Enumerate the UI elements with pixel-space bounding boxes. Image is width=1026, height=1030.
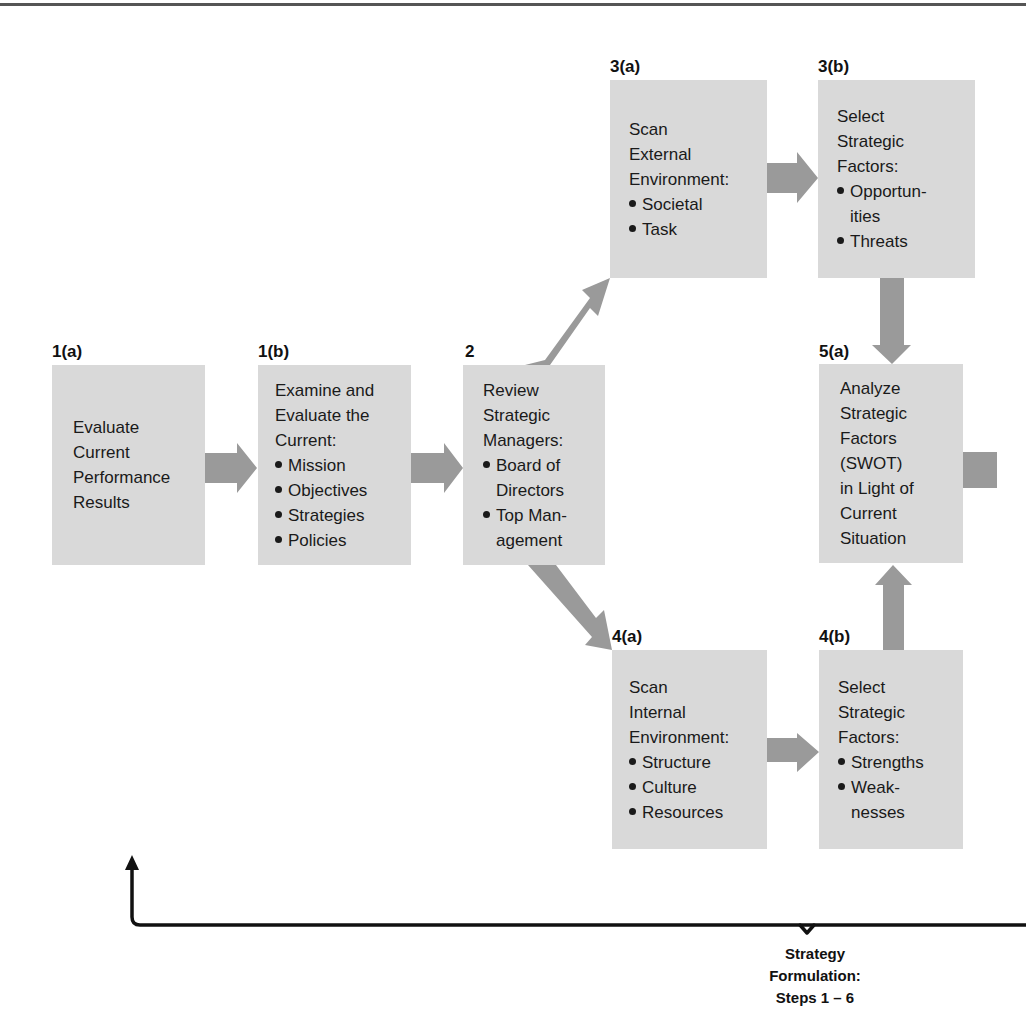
bullet-item: Resources (629, 800, 767, 825)
box-text: External (629, 142, 767, 167)
bullet-item: Threats (837, 229, 975, 254)
bullet-item: Societal (629, 192, 767, 217)
step-box-4b: Select Strategic Factors: Strengths Weak… (819, 650, 963, 849)
feedback-arrowhead-icon (125, 855, 139, 870)
footer-line: Strategy (745, 943, 885, 965)
bullet-icon (275, 486, 282, 493)
step-label-5a: 5(a) (819, 342, 849, 362)
bullet-icon (275, 461, 282, 468)
bullet-item: Opportun-ities (837, 179, 975, 229)
box-text: Evaluate the (275, 403, 411, 428)
step-label-1b: 1(b) (258, 342, 289, 362)
arrow-right-icon (767, 733, 819, 772)
box-text: Strategic (838, 700, 963, 725)
bullet-icon (838, 783, 845, 790)
box-text: Current: (275, 428, 411, 453)
arrow-diagonal-down-icon (528, 565, 612, 650)
bullet-icon (837, 237, 844, 244)
box-text: Strategic (837, 129, 975, 154)
step-box-4a: Scan Internal Environment: Structure Cul… (612, 650, 767, 849)
bullet-icon (483, 461, 490, 468)
bullet-item: Board ofDirectors (483, 453, 605, 503)
box-text: Scan (629, 117, 767, 142)
bullet-icon (838, 758, 845, 765)
box-text: Environment: (629, 725, 767, 750)
box-text: Examine and (275, 378, 411, 403)
step-label-4b: 4(b) (819, 627, 850, 647)
bullet-item: Policies (275, 528, 411, 553)
bullet-item: Objectives (275, 478, 411, 503)
box-text: Analyze (840, 376, 963, 401)
box-text: Performance (73, 465, 205, 490)
bullet-icon (629, 808, 636, 815)
step-box-2: Review Strategic Managers: Board ofDirec… (463, 365, 605, 565)
step-label-1a: 1(a) (52, 342, 82, 362)
step-label-2: 2 (465, 342, 474, 362)
step-label-3b: 3(b) (818, 57, 849, 77)
arrow-right-icon (411, 443, 463, 493)
bullet-item: Weak-nesses (838, 775, 963, 825)
bullet-icon (629, 200, 636, 207)
step-box-3a: Scan External Environment: Societal Task (610, 80, 767, 278)
box-text: Current (73, 440, 205, 465)
arrow-down-icon (872, 278, 911, 364)
box-text: Factors (840, 426, 963, 451)
bullet-item: Culture (629, 775, 767, 800)
bullet-icon (275, 536, 282, 543)
box-text: in Light of (840, 476, 963, 501)
footer-line: Steps 1 – 6 (745, 987, 885, 1009)
strategy-formulation-label: Strategy Formulation: Steps 1 – 6 (745, 943, 885, 1009)
box-text: Results (73, 490, 205, 515)
arrow-up-icon (875, 565, 912, 650)
box-text: Situation (840, 526, 963, 551)
bullet-icon (629, 783, 636, 790)
arrow-right-icon (767, 152, 818, 203)
box-text: Internal (629, 700, 767, 725)
bullet-item: Structure (629, 750, 767, 775)
bullet-item: Strengths (838, 750, 963, 775)
footer-line: Formulation: (745, 965, 885, 987)
box-text: Strategic (840, 401, 963, 426)
step-box-3b: Select Strategic Factors: Opportun-ities… (818, 80, 975, 278)
step-box-5a: Analyze Strategic Factors (SWOT) in Ligh… (819, 364, 963, 563)
arrow-offscreen-right-icon (963, 452, 997, 488)
bullet-icon (629, 758, 636, 765)
box-text: Factors: (838, 725, 963, 750)
box-text: Factors: (837, 154, 975, 179)
bullet-item: Mission (275, 453, 411, 478)
step-label-4a: 4(a) (612, 627, 642, 647)
box-text: Evaluate (73, 415, 205, 440)
box-text: Review (483, 378, 605, 403)
bullet-item: Top Man-agement (483, 503, 605, 553)
bullet-item: Strategies (275, 503, 411, 528)
box-text: (SWOT) (840, 451, 963, 476)
bullet-icon (483, 511, 490, 518)
arrow-right-icon (205, 443, 257, 493)
step-box-1b: Examine and Evaluate the Current: Missio… (258, 365, 411, 565)
bullet-icon (837, 187, 844, 194)
bullet-icon (629, 225, 636, 232)
feedback-bracket-line (132, 870, 1026, 925)
box-text: Current (840, 501, 963, 526)
box-text: Scan (629, 675, 767, 700)
box-text: Select (838, 675, 963, 700)
bullet-icon (275, 511, 282, 518)
box-text: Environment: (629, 167, 767, 192)
step-box-1a: Evaluate Current Performance Results (52, 365, 205, 565)
box-text: Select (837, 104, 975, 129)
arrow-diagonal-up-icon (525, 278, 610, 365)
box-text: Strategic (483, 403, 605, 428)
bullet-item: Task (629, 217, 767, 242)
step-label-3a: 3(a) (610, 57, 640, 77)
box-text: Managers: (483, 428, 605, 453)
